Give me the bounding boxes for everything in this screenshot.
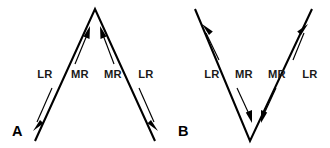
panel-b: LR MR MR LR B [178,9,318,141]
panel-a-letter: A [12,123,23,139]
panel-a-label-lr-right: LR [138,68,153,80]
panel-a-left-mr-arrow [75,26,90,64]
panel-a: LR MR MR LR A [12,9,158,141]
panel-a-v-path [35,9,155,141]
arrow-head-icon [297,24,308,35]
panel-b-label-mr-left: MR [235,68,253,80]
panel-b-label-lr-left: LR [204,68,219,80]
panel-b-letter: B [178,123,188,139]
panel-a-label-mr-right: MR [104,68,122,80]
arrow-head-icon [261,110,267,123]
panel-b-label-lr-right: LR [302,68,317,80]
panel-a-label-mr-left: MR [71,68,89,80]
panel-a-label-lr-left: LR [37,68,52,80]
panel-b-right-mr-arrow [261,88,276,123]
panel-b-label-mr-right: MR [268,68,286,80]
figure-canvas: LR MR MR LR A [0,0,330,148]
panel-b-right-lr-arrow [293,24,308,60]
vergence-figure: LR MR MR LR A [0,0,330,148]
arrow-head-icon [246,110,252,123]
